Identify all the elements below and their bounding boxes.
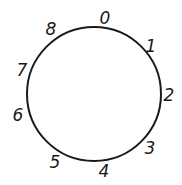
label-0: 0 [100,10,111,27]
label-3: 3 [145,140,156,157]
label-1: 1 [146,38,157,55]
label-7: 7 [17,62,28,79]
circle [27,27,161,161]
label-6: 6 [13,107,24,124]
label-4: 4 [99,163,110,180]
label-8: 8 [46,21,57,38]
label-5: 5 [50,154,61,171]
label-2: 2 [164,87,175,104]
